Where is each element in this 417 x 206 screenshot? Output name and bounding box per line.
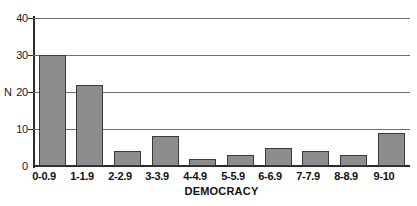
bar-6-6.9 xyxy=(265,148,292,167)
bar-5-5.9 xyxy=(227,155,254,166)
bar-series xyxy=(33,18,410,166)
democracy-histogram: 40 30 20 10 0 N xyxy=(0,0,417,206)
bar-4-4.9 xyxy=(189,159,216,166)
x-tick-label-0: 0-0.9 xyxy=(24,170,64,182)
y-tick-label-40: 40 xyxy=(0,13,28,24)
bar-1-1.9 xyxy=(76,85,103,166)
x-axis-title: DEMOCRACY xyxy=(33,185,410,197)
x-tick-label-5: 5-5.9 xyxy=(213,170,253,182)
bar-2-2.9 xyxy=(114,151,141,166)
plot-area xyxy=(33,18,410,166)
x-tick-label-4: 4-4.9 xyxy=(175,170,215,182)
bar-3-3.9 xyxy=(152,136,179,166)
bar-8-8.9 xyxy=(340,155,367,166)
x-tick-label-3: 3-3.9 xyxy=(137,170,177,182)
bar-7-7.9 xyxy=(302,151,329,166)
y-tick-label-10: 10 xyxy=(0,124,28,135)
x-tick-label-6: 6-6.9 xyxy=(250,170,290,182)
x-tick-label-7: 7-7.9 xyxy=(288,170,328,182)
x-tick-label-2: 2-2.9 xyxy=(100,170,140,182)
y-tick-label-30: 30 xyxy=(0,50,28,61)
x-tick-label-1: 1-1.9 xyxy=(62,170,102,182)
x-tick-label-8: 8-8.9 xyxy=(326,170,366,182)
y-axis-title: N xyxy=(4,87,12,98)
bar-9-10 xyxy=(378,133,405,166)
x-tick-label-9: 9-10 xyxy=(364,170,404,182)
bar-0-0.9 xyxy=(39,55,66,166)
